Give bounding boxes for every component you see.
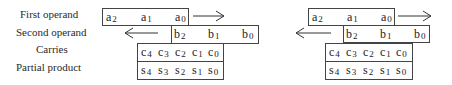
carries-box: c4 c3 c2 c1 c0 [325,43,413,62]
operand-digit: b1 [380,28,392,41]
partial-digit: s1 [380,64,390,77]
carry-digit: c3 [158,46,169,59]
partial-digit: s4 [329,64,339,77]
arrow-right-icon [397,10,433,22]
operand-digit: a1 [347,11,358,24]
partial-digit: s0 [208,64,218,77]
carries-box: c4 c3 c2 c1 c0 [137,43,224,62]
partial-digit: s2 [175,64,185,77]
label-first-operand: First operand [20,8,78,20]
operand-digit: b1 [208,28,220,41]
second-operand-box: b2 b1 b0 [343,25,430,43]
first-operand-box: a2 a1 a0 [102,8,189,26]
carry-digit: c4 [141,46,152,59]
operand-digit: b0 [414,28,426,41]
partial-digit: s3 [158,64,168,77]
operand-digit: a0 [381,11,392,24]
carry-digit: c4 [329,46,340,59]
arrow-left-icon [294,27,332,39]
second-operand-box: b2 b1 b0 [171,25,259,44]
carry-digit: c2 [175,46,186,59]
operand-digit: b2 [346,28,358,41]
carry-digit: c2 [363,46,374,59]
arrow-right-icon [192,10,226,22]
partial-digit: s4 [141,64,151,77]
label-second-operand: Second operand [16,26,87,38]
operand-digit: a2 [312,11,323,24]
operand-digit: b0 [242,28,254,41]
carry-digit: c1 [380,46,391,59]
label-carries: Carries [36,43,68,55]
arrow-left-icon [123,27,159,39]
first-operand-box: a2 a1 a0 [308,8,395,26]
carry-digit: c3 [346,46,357,59]
label-partial-product: Partial product [16,61,81,73]
operand-digit: b2 [174,28,186,41]
partial-digit: s3 [346,64,356,77]
partial-digit: s0 [396,64,406,77]
carry-digit: c1 [192,46,203,59]
partial-product-box: s4 s3 s2 s1 s0 [137,61,224,80]
carry-digit: c0 [208,46,219,59]
partial-digit: s2 [363,64,373,77]
operand-digit: a2 [106,11,117,24]
partial-digit: s1 [192,64,202,77]
operand-digit: a1 [141,11,152,24]
partial-product-box: s4 s3 s2 s1 s0 [325,61,413,80]
operand-digit: a0 [175,11,186,24]
carry-digit: c0 [396,46,407,59]
